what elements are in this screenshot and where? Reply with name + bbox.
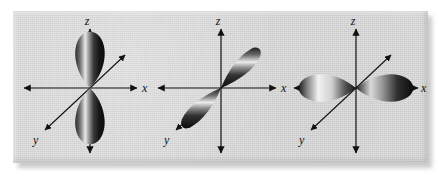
lobe-y-negative: [181, 88, 221, 128]
z-axis-label-p-z: z: [84, 14, 90, 28]
y-axis-label-p-y: y: [163, 133, 170, 147]
x-axis-label-p-y: x: [280, 81, 287, 95]
orbital-lobes-p-y: [176, 38, 261, 129]
lobe-y-positive: [221, 48, 261, 88]
p-z-orbital-panel: z x y: [13, 11, 151, 163]
p-x-orbital-panel: z x y: [290, 11, 428, 163]
z-axis-label-p-x: z: [350, 14, 356, 28]
lobe-z-positive: [75, 32, 105, 88]
p-y-orbital-panel: z x y: [152, 11, 290, 163]
y-axis-label-p-z: y: [32, 133, 39, 147]
figure-root: z x y: [0, 0, 443, 180]
y-axis-label-p-x: y: [298, 133, 305, 147]
figure-plate: z x y: [13, 11, 428, 163]
x-axis-label-p-x: x: [420, 81, 427, 95]
lobe-x-negative: [299, 74, 356, 102]
x-axis-label-p-z: x: [141, 81, 148, 95]
z-axis-label-p-y: z: [215, 14, 221, 28]
lobe-z-negative: [75, 88, 105, 144]
lobe-x-positive: [356, 74, 413, 102]
